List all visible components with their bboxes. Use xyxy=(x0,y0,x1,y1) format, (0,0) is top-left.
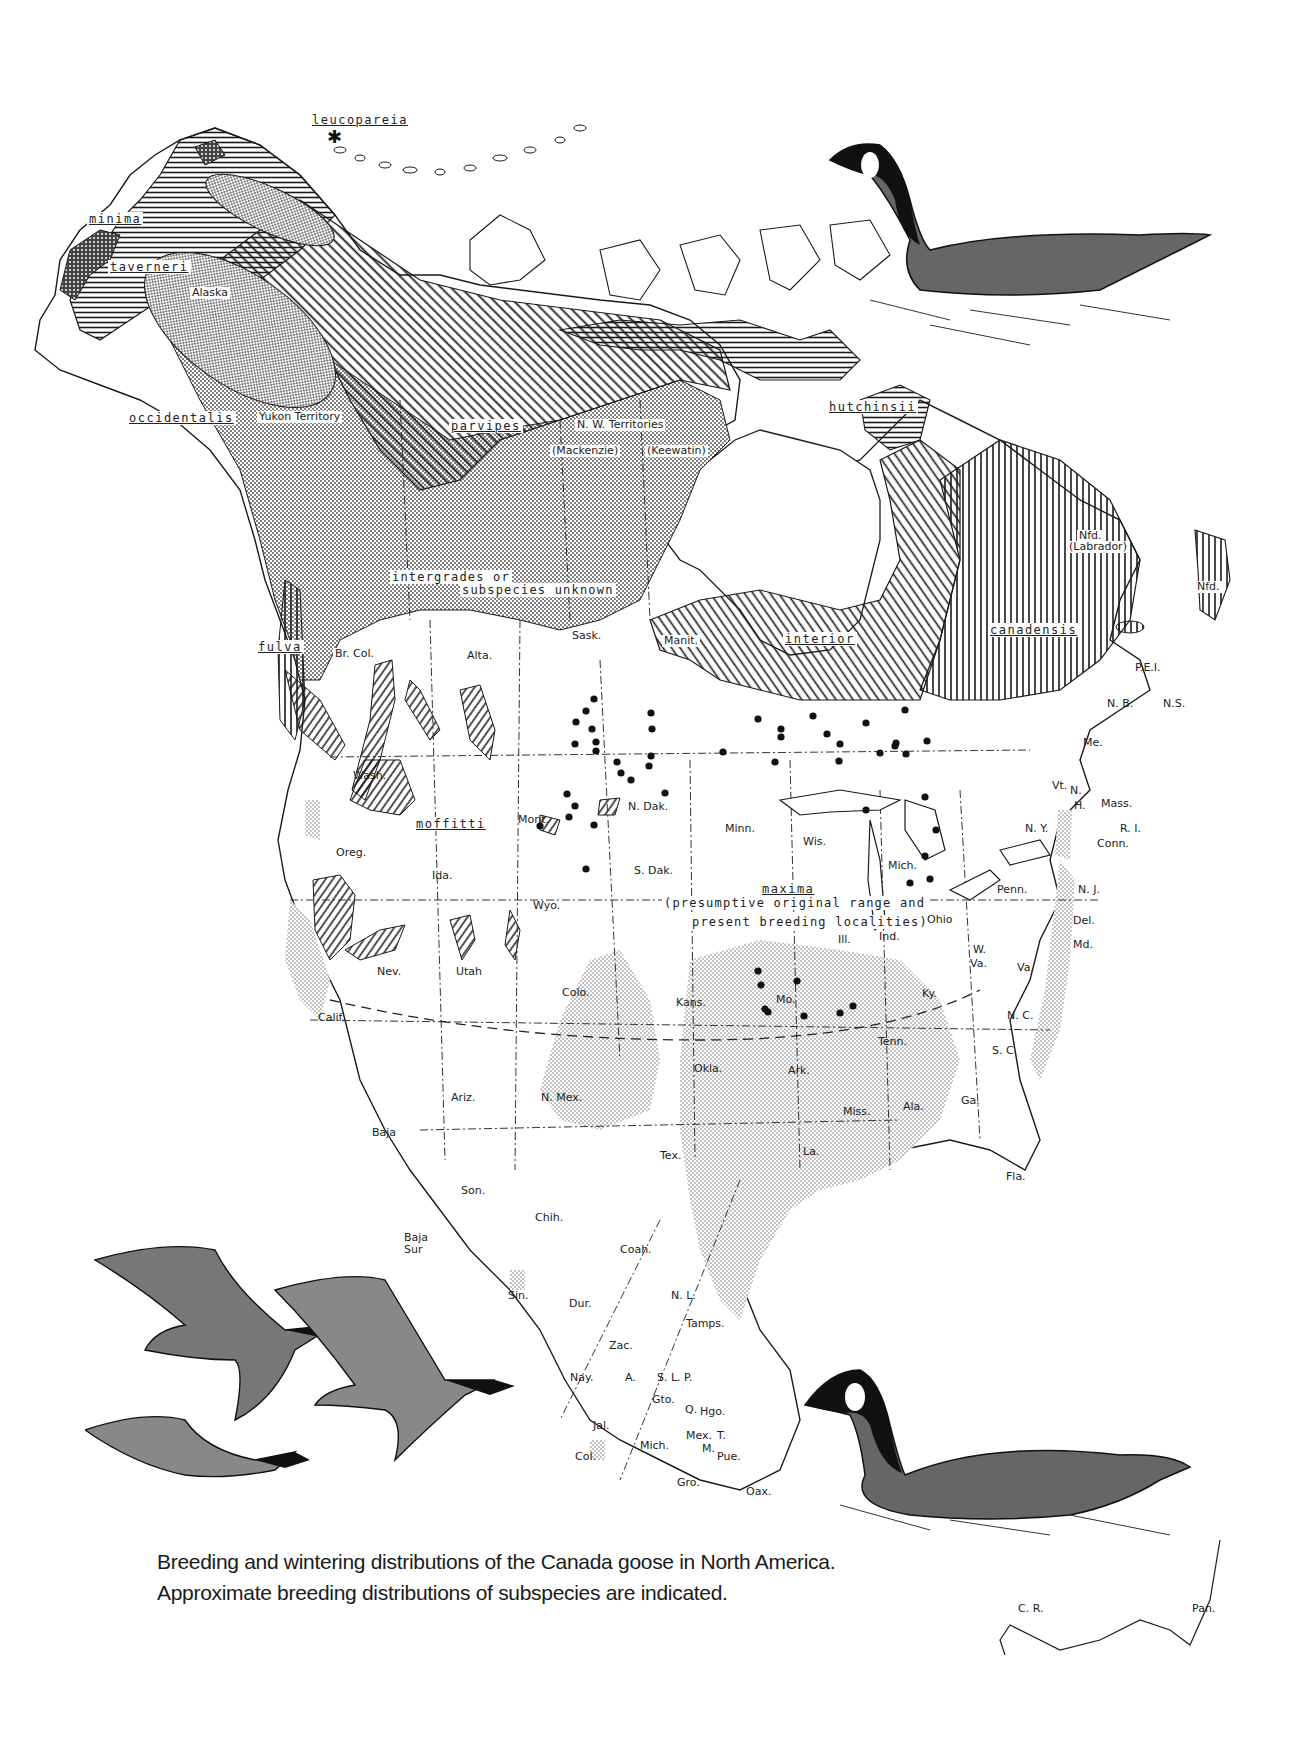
breeding-dot xyxy=(862,719,869,726)
breeding-dot xyxy=(902,750,909,757)
region-pan: Pan. xyxy=(1192,1603,1215,1615)
breeding-dot xyxy=(923,737,930,744)
region-tlax: T. xyxy=(717,1430,726,1442)
region-ariz: Ariz. xyxy=(451,1092,475,1104)
breeding-dot xyxy=(809,712,816,719)
breeding-dot xyxy=(823,730,830,737)
maxima-note-line1: (presumptive original range and xyxy=(662,896,927,910)
breeding-dot xyxy=(647,752,654,759)
region-zac: Zac. xyxy=(609,1340,633,1352)
breeding-dot xyxy=(921,793,928,800)
label-moffitti: moffitti xyxy=(414,817,488,831)
breeding-dot xyxy=(777,733,784,740)
breeding-dot xyxy=(582,707,589,714)
region-wyo: Wyo. xyxy=(533,900,560,912)
region-sc: S. C. xyxy=(992,1045,1017,1057)
region-nev: Nev. xyxy=(377,966,401,978)
region-nmex: N. Mex. xyxy=(541,1092,582,1104)
breeding-dot xyxy=(849,1002,856,1009)
region-ndak: N. Dak. xyxy=(628,801,668,813)
label-maxima: maxima xyxy=(760,882,816,896)
region-conn: Conn. xyxy=(1097,838,1129,850)
breeding-dot xyxy=(777,725,784,732)
breeding-dot xyxy=(588,725,595,732)
intergrades-note-line2: subspecies unknown xyxy=(460,583,616,597)
region-chih: Chih. xyxy=(535,1212,563,1224)
region-wash: Wash. xyxy=(353,770,386,782)
breeding-dot xyxy=(648,725,655,732)
region-pue: Pue. xyxy=(717,1451,741,1463)
breeding-dot xyxy=(835,757,842,764)
region-sask: Sask. xyxy=(570,630,603,642)
region-me: Me. xyxy=(1083,737,1103,749)
region-ky: Ky. xyxy=(922,988,937,1000)
region-del: Del. xyxy=(1073,915,1095,927)
region-slp: S. L. P. xyxy=(657,1372,693,1384)
region-ns: N.S. xyxy=(1163,698,1185,710)
region-mich-mx: Mich. xyxy=(640,1440,669,1452)
intergrades-note-line1: intergrades or xyxy=(390,570,512,584)
region-minn: Minn. xyxy=(725,823,755,835)
region-gto: Gto. xyxy=(652,1394,675,1406)
region-baja: Baja xyxy=(372,1127,396,1139)
region-col: Col. xyxy=(575,1451,596,1463)
region-wva-1: W. xyxy=(973,944,986,956)
region-calif: Calif. xyxy=(318,1012,345,1024)
region-baja-sur-2: Sur xyxy=(404,1244,422,1256)
label-occidentalis: occidentalis xyxy=(127,411,236,425)
region-dur: Dur. xyxy=(569,1298,591,1310)
breeding-dot xyxy=(891,742,898,749)
breeding-dot xyxy=(754,715,761,722)
label-parvipes: parvipes xyxy=(449,419,523,433)
breeding-dot xyxy=(876,749,883,756)
region-mo: Mo. xyxy=(776,994,796,1006)
figure-page: ✱ leucopareia minima taverneri occidenta… xyxy=(0,0,1303,1739)
region-nfd: Nfd. xyxy=(1195,581,1222,593)
region-kans: Kans. xyxy=(676,997,706,1009)
region-gro: Gro. xyxy=(677,1477,700,1489)
region-miss: Miss. xyxy=(843,1106,871,1118)
region-wva-2: Va. xyxy=(970,958,987,970)
breeding-dot xyxy=(906,879,913,886)
region-nb: N. B. xyxy=(1107,698,1133,710)
flying-geese-illustration xyxy=(85,1230,565,1490)
region-nj: N. J. xyxy=(1078,884,1100,896)
region-tamps: Tamps. xyxy=(686,1318,725,1330)
region-qro: Q. xyxy=(685,1404,697,1416)
region-utah: Utah xyxy=(456,966,482,978)
region-nc: N. C. xyxy=(1007,1010,1033,1022)
region-vt: Vt. xyxy=(1052,780,1067,792)
swimming-goose-top-illustration xyxy=(810,120,1230,350)
region-ohio: Ohio xyxy=(927,914,952,926)
breeding-dot xyxy=(771,758,778,765)
region-penn: Penn. xyxy=(997,884,1027,896)
region-md: Md. xyxy=(1073,939,1093,951)
breeding-dot xyxy=(590,695,597,702)
breeding-dot xyxy=(932,826,939,833)
region-pei: P.E.I. xyxy=(1135,662,1161,674)
region-nh-2: H. xyxy=(1074,800,1086,812)
leucopareia-asterisk-icon: ✱ xyxy=(327,126,342,147)
breeding-dot xyxy=(661,789,668,796)
region-ill: Ill. xyxy=(838,934,851,946)
breeding-dot xyxy=(565,813,572,820)
region-colo: Colo. xyxy=(562,987,590,999)
region-nl: N. L. xyxy=(671,1290,696,1302)
region-alta: Alta. xyxy=(465,650,494,662)
label-minima: minima xyxy=(87,212,143,226)
breeding-dot xyxy=(627,776,634,783)
label-interior: interior xyxy=(783,632,857,646)
label-taverneri: taverneri xyxy=(108,260,191,274)
region-la: La. xyxy=(803,1146,819,1158)
region-son: Son. xyxy=(461,1185,485,1197)
region-mich: Mich. xyxy=(888,860,917,872)
region-mex: Mex. xyxy=(686,1430,712,1442)
breeding-dot xyxy=(563,790,570,797)
wintering-range-south xyxy=(680,940,960,1320)
breeding-dot xyxy=(764,1008,771,1015)
region-oreg: Oreg. xyxy=(336,847,366,859)
region-oax: Oax. xyxy=(746,1486,771,1498)
region-ri: R. I. xyxy=(1120,823,1141,835)
breeding-dot xyxy=(617,769,624,776)
region-jal: Jal. xyxy=(593,1420,610,1432)
